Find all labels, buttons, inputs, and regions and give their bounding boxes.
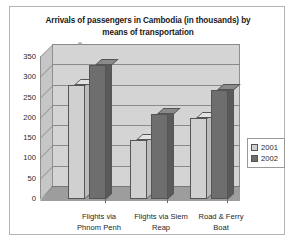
x-axis-category-line: Boat xyxy=(186,222,256,233)
x-axis-category-line: Road & Ferry xyxy=(186,211,256,222)
bar-face xyxy=(68,85,85,199)
y-axis-tick-label: 300 xyxy=(6,72,36,81)
x-axis-category-line: Phnom Penh xyxy=(64,222,134,233)
legend-swatch-2002-icon xyxy=(251,155,258,162)
legend-swatch-2001-icon xyxy=(251,144,258,151)
bar-side xyxy=(228,85,234,199)
bar-2001-2 xyxy=(130,140,147,199)
x-axis-tick xyxy=(105,199,106,203)
legend-item-2002: 2002 xyxy=(251,153,281,164)
x-axis-category-label: Flights viaPhnom Penh xyxy=(64,211,134,233)
y-axis-tick-label: 50 xyxy=(6,174,36,183)
y-axis-tick-label: 350 xyxy=(6,52,36,61)
y-axis-tick-label: 0 xyxy=(6,194,36,203)
bar-2001-3 xyxy=(190,118,207,199)
gridline xyxy=(52,44,240,45)
bar-2002-1 xyxy=(89,65,106,199)
plot-area: 050100150200250300350 xyxy=(30,44,240,207)
chart-legend: 2001 2002 xyxy=(247,138,285,168)
bar-face xyxy=(190,118,207,199)
y-axis-tick-label: 100 xyxy=(6,153,36,162)
y-axis-tick-label: 200 xyxy=(6,113,36,122)
x-axis-category-label: Road & FerryBoat xyxy=(186,211,256,233)
chart-title: Arrivals of passengers in Cambodia (in t… xyxy=(24,15,272,38)
bar-face xyxy=(130,140,147,199)
x-axis-category-line: Flights via xyxy=(64,211,134,222)
bar-2001-1 xyxy=(68,85,85,199)
bar-2002-2 xyxy=(151,114,168,199)
x-axis-tick xyxy=(227,199,228,203)
bar-face xyxy=(151,114,168,199)
x-axis-tick xyxy=(167,199,168,203)
bar-face xyxy=(211,90,228,199)
chart-title-line-1: Arrivals of passengers in Cambodia (in t… xyxy=(24,15,272,27)
bar-side xyxy=(168,108,174,199)
chart-title-line-2: means of transportation xyxy=(24,27,272,39)
legend-item-2001: 2001 xyxy=(251,142,281,153)
bar-side xyxy=(106,60,112,199)
chart-frame: Arrivals of passengers in Cambodia (in t… xyxy=(9,6,285,235)
gridline xyxy=(52,64,240,65)
y-axis-tick-label: 250 xyxy=(6,93,36,102)
bar-face xyxy=(89,65,106,199)
bar-2002-3 xyxy=(211,90,228,199)
y-axis-tick-label: 150 xyxy=(6,133,36,142)
legend-label-2001: 2001 xyxy=(261,143,278,152)
legend-label-2002: 2002 xyxy=(261,154,278,163)
